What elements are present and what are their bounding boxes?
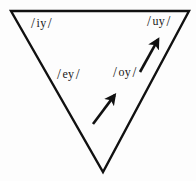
vowel-text-oy: oy [117,66,132,78]
vowel-label-oy: /oy/ [113,65,137,79]
vowel-text-iy: iy [35,17,48,29]
slash-open-iy: / [31,17,35,31]
slash-close-iy: / [48,17,52,31]
vowel-text-ey: ey [61,68,76,80]
slash-open-ey: / [57,68,61,82]
vowel-label-ey: /ey/ [57,67,80,81]
vowel-diagram-canvas: /iy/ /uy/ /ey/ /oy/ [0,0,196,181]
slash-open-uy: / [147,15,151,29]
vowel-label-uy: /uy/ [147,14,171,28]
shift-arrow-lower-icon [93,95,115,124]
vowel-triangle-outline [11,11,189,172]
slash-close-oy: / [133,66,137,80]
vowel-text-uy: uy [151,15,166,27]
slash-close-uy: / [167,15,171,29]
slash-close-ey: / [76,68,80,82]
slash-open-oy: / [113,66,117,80]
vowel-label-iy: /iy/ [31,16,52,30]
shift-arrow-upper-icon [140,39,158,72]
